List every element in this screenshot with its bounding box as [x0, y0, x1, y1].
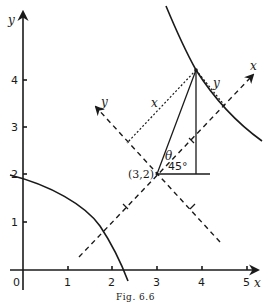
- origin-label: 0: [13, 276, 20, 289]
- y-tick-2: 2: [11, 168, 18, 181]
- figure-canvas: 0 1 2 3 4 5 x 1 2 3 4 y x y x y (3,2) θ …: [0, 0, 273, 305]
- y-axis-label: y: [7, 13, 15, 27]
- main-axes: [10, 12, 258, 290]
- hyperbola-upper-branch: [166, 6, 262, 141]
- rotated-y-label: y: [100, 95, 108, 109]
- y-tick-3: 3: [11, 121, 18, 134]
- point-p: [194, 68, 198, 72]
- dotted-x-distance: [127, 70, 196, 143]
- x-axis-label: x: [254, 276, 261, 290]
- point-label: (3,2): [128, 168, 154, 181]
- hyperbola-lower-branch: [10, 175, 128, 281]
- curves: [10, 6, 262, 281]
- figure-caption: Fig. 6.6: [116, 292, 155, 302]
- x-tick-3: 3: [153, 276, 160, 289]
- angle-45-label: 45°: [168, 160, 188, 173]
- y-tick-1: 1: [11, 216, 18, 229]
- radius-line: [157, 70, 196, 174]
- x-distance-label: x: [151, 96, 158, 110]
- x-tick-5: 5: [243, 276, 250, 289]
- rotated-x-label: x: [250, 59, 257, 73]
- x-tick-4: 4: [198, 276, 205, 289]
- y-distance-label: y: [212, 76, 220, 90]
- y-tick-4: 4: [11, 74, 18, 87]
- point-3-2: [156, 173, 159, 176]
- construction-lines: [127, 70, 225, 174]
- x-tick-1: 1: [64, 276, 71, 289]
- x-tick-2: 2: [108, 276, 115, 289]
